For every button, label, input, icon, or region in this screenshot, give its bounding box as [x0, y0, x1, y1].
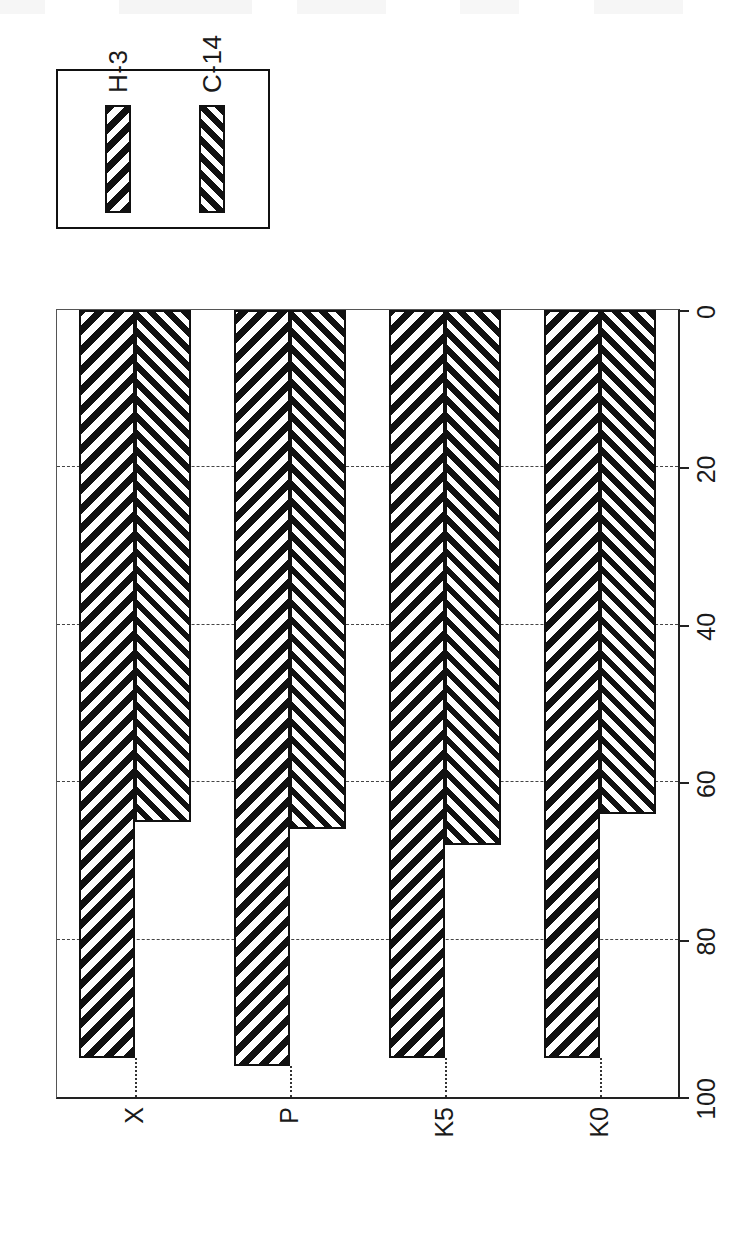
bar-h3-x [79, 310, 135, 1058]
value-axis-tick [680, 1097, 689, 1099]
value-axis-tick [680, 782, 689, 784]
category-axis-label-k5: K5 [430, 1107, 459, 1138]
value-axis-label: 40 [692, 613, 721, 641]
bar-h3-p [234, 310, 290, 1066]
bar-h3-k0 [544, 310, 600, 1058]
value-axis-tick [680, 310, 689, 312]
bar-leader-line [600, 1058, 602, 1097]
legend-label-h3: H-3 [103, 50, 134, 93]
value-axis-tick [680, 625, 689, 627]
bar-leader-line [445, 1058, 447, 1097]
value-axis-label: 20 [692, 456, 721, 484]
legend-entry-h3: H-3 [76, 85, 160, 213]
value-axis-label: 100 [692, 1078, 721, 1120]
value-axis-tick [680, 467, 689, 469]
bar-c14-p [290, 310, 346, 829]
bar-c14-k0 [600, 310, 656, 814]
category-axis-label-k0: K0 [585, 1107, 614, 1138]
value-axis-label: 60 [692, 770, 721, 798]
legend-swatch-h3 [105, 105, 131, 213]
bar-leader-line [135, 1058, 137, 1097]
legend-entry-c14: C-14 [170, 85, 254, 213]
plot-area [56, 309, 680, 1099]
category-axis-label-x: X [119, 1107, 148, 1124]
legend-label-c14: C-14 [197, 35, 228, 93]
bar-c14-k5 [445, 310, 501, 845]
value-axis: 020406080100 [680, 309, 716, 1099]
bar-chart-figure: H-3 C-14 020406080100 XPK5K0 [26, 39, 716, 1219]
category-axis: XPK5K0 [56, 1103, 680, 1159]
value-axis-label: 0 [692, 305, 721, 319]
bar-c14-x [135, 310, 191, 822]
bar-h3-k5 [389, 310, 445, 1058]
chart-legend: H-3 C-14 [56, 69, 270, 229]
category-axis-label-p: P [274, 1107, 303, 1124]
value-axis-label: 80 [692, 928, 721, 956]
value-axis-tick [680, 940, 689, 942]
scan-noise-artifact [0, 0, 742, 14]
bar-leader-line [290, 1066, 292, 1097]
legend-swatch-c14 [199, 105, 225, 213]
